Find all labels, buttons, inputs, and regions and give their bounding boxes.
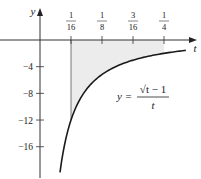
equation-lhs: y =: [116, 90, 132, 102]
svg-text:−12: −12: [18, 116, 33, 126]
x-tick: 116: [66, 10, 76, 44]
svg-text:−16: −16: [18, 142, 33, 152]
x-tick: 14: [159, 10, 169, 44]
y-axis-arrow-icon: [37, 8, 43, 16]
svg-text:3: 3: [131, 10, 135, 20]
y-tick: −8: [23, 89, 44, 99]
x-ticks: 1161831614: [66, 10, 169, 44]
x-axis-label: t: [193, 42, 197, 54]
shaded-region: [71, 40, 164, 120]
equation-numerator: √t − 1: [140, 83, 166, 95]
svg-text:4: 4: [162, 22, 167, 32]
svg-text:−4: −4: [23, 62, 33, 72]
y-tick: −4: [23, 62, 44, 72]
x-tick: 316: [128, 10, 138, 44]
equation-label: y = √t − 1 t: [116, 83, 169, 111]
shaded-area: [71, 40, 164, 120]
svg-text:1: 1: [69, 10, 73, 20]
svg-text:1: 1: [100, 10, 104, 20]
svg-text:−8: −8: [23, 89, 33, 99]
svg-text:8: 8: [100, 22, 104, 32]
function-plot: t y 1161831614 −4−8−12−16 y = √t − 1 t: [0, 0, 201, 179]
x-tick: 18: [97, 10, 107, 44]
svg-text:16: 16: [67, 22, 76, 32]
equation-denominator: t: [151, 99, 155, 111]
svg-text:16: 16: [129, 22, 138, 32]
y-axis-label: y: [30, 5, 36, 17]
svg-text:1: 1: [162, 10, 166, 20]
